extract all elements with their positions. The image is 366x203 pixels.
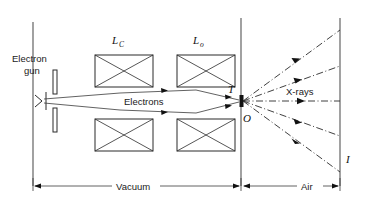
electron-beam-arrow-upper-2 xyxy=(225,95,232,100)
air-label: Air xyxy=(301,181,313,192)
origin-label: O xyxy=(243,112,251,124)
target-block xyxy=(240,95,244,107)
vacuum-label: Vacuum xyxy=(116,181,150,192)
vacuum-arrow-right xyxy=(233,184,240,189)
target-label: T xyxy=(228,83,235,95)
objective-lens-upper-coil xyxy=(177,55,235,87)
xray-arrow-3 xyxy=(297,98,305,104)
electron-beam-arrow-upper xyxy=(161,88,168,93)
xray-microscope-diagram: Electron gun L C L o Electrons T O X-ray… xyxy=(0,0,366,203)
xrays-label: X-rays xyxy=(286,86,314,97)
schematic-svg: Electron gun L C L o Electrons T O X-ray… xyxy=(0,0,366,203)
image-plane-label: I xyxy=(345,153,351,165)
electrons-label: Electrons xyxy=(124,96,164,107)
electron-gun-label-line1: Electron xyxy=(12,53,47,64)
condenser-lens-label: L xyxy=(111,34,118,46)
anode-plate-lower xyxy=(53,108,57,132)
electron-gun-label-line2: gun xyxy=(24,65,40,76)
cathode-icon xyxy=(35,95,42,107)
objective-lens-subscript: o xyxy=(200,40,204,49)
air-arrow-left xyxy=(243,184,250,189)
objective-lens-label: L xyxy=(192,34,199,46)
condenser-lens-lower-coil xyxy=(95,119,153,151)
objective-lens-lower-coil xyxy=(177,119,235,151)
air-arrow-right xyxy=(332,184,339,189)
electron-beam-arrow-lower xyxy=(161,110,168,115)
vacuum-arrow-left xyxy=(34,184,41,189)
anode-plate-upper xyxy=(53,70,57,94)
xray-ray-5 xyxy=(243,101,340,172)
condenser-lens-subscript: C xyxy=(119,40,125,49)
xray-ray-4 xyxy=(243,101,340,136)
xray-arrow-4 xyxy=(294,119,303,125)
condenser-lens-upper-coil xyxy=(95,55,153,87)
electron-beam-arrow-lower-2 xyxy=(225,104,232,109)
